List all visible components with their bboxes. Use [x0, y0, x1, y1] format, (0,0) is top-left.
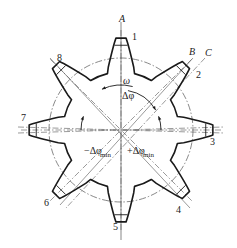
tooth-label-1: 1 [132, 31, 137, 42]
gear-diagram: 12345678 A B C ω Δφ −Δφ min +Δφ min [0, 0, 237, 248]
tooth-label-6: 6 [44, 197, 49, 208]
delta-phi-label: Δφ [122, 90, 134, 101]
diagonal-line [50, 58, 190, 208]
axis-label-c: C [205, 47, 212, 58]
minus-delta-phi-arrow-arrowhead [81, 116, 84, 120]
omega-label: ω [123, 75, 130, 86]
tooth-label-7: 7 [21, 112, 26, 123]
tooth-label-5: 5 [113, 221, 118, 232]
svg-text:min: min [100, 151, 111, 159]
tooth-label-4: 4 [176, 204, 181, 215]
plus-delta-phi-min-label: +Δφ min [127, 145, 154, 159]
axis-label-a: A [118, 13, 126, 24]
axis-label-b: B [189, 46, 195, 57]
tooth-label-3: 3 [210, 136, 215, 147]
tooth-label-8: 8 [57, 52, 62, 63]
minus-delta-phi-min-label: −Δφ min [84, 145, 111, 159]
svg-text:min: min [143, 151, 154, 159]
delta-phi-arrow-arrowhead [152, 106, 155, 110]
plus-delta-phi-arrow-arrowhead [158, 116, 161, 120]
tooth-label-2: 2 [196, 69, 201, 80]
